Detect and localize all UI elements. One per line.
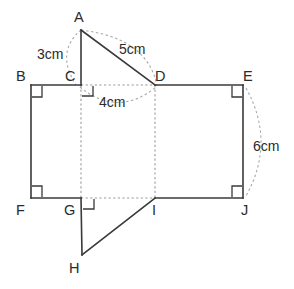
edge-G-H: [81, 198, 82, 255]
dim-6cm-label: 6cm: [253, 139, 279, 153]
right-angle-E: [232, 86, 242, 97]
right-angle-marks-group: [32, 86, 242, 209]
geometry-diagram: ABCDEFGHIJ 3cm5cm4cm6cm: [0, 0, 294, 289]
vertex-label-G: G: [64, 203, 75, 218]
right-angle-G: [83, 199, 94, 209]
figure-canvas: [0, 0, 294, 289]
vertex-label-D: D: [155, 69, 165, 84]
vertex-label-J: J: [241, 203, 248, 218]
vertex-label-F: F: [16, 203, 25, 218]
vertex-label-A: A: [74, 10, 84, 25]
vertex-label-I: I: [152, 203, 156, 218]
edge-H-I: [82, 198, 155, 255]
right-angle-J: [232, 186, 242, 197]
right-angle-C: [82, 86, 93, 96]
dimension-arcs-group: [67, 30, 261, 196]
vertex-label-E: E: [243, 69, 253, 84]
vertex-label-H: H: [69, 261, 79, 276]
solid-edges-group: [31, 30, 243, 255]
right-angle-F: [32, 186, 42, 197]
right-angle-B: [32, 86, 42, 97]
vertex-label-C: C: [65, 69, 75, 84]
dim-4cm-label: 4cm: [99, 95, 125, 109]
dim-5cm-label: 5cm: [119, 42, 145, 56]
dim-3cm-label: 3cm: [37, 47, 63, 61]
vertex-label-B: B: [16, 69, 26, 84]
